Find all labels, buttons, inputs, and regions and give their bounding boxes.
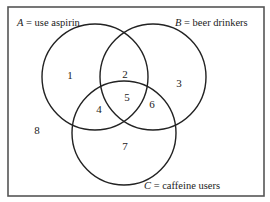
set-a-circle: [42, 24, 148, 130]
region-8-label: 8: [34, 124, 40, 136]
region-7-label: 7: [122, 140, 128, 152]
set-b-description: = beer drinkers: [181, 17, 247, 28]
universal-set-frame: [8, 7, 264, 196]
venn-diagram: A = use aspirin B = beer drinkers C = ca…: [0, 0, 270, 202]
region-4-label: 4: [96, 103, 102, 115]
set-b-label: B = beer drinkers: [175, 17, 248, 28]
set-a-description: = use aspirin: [23, 17, 80, 28]
region-5-label: 5: [124, 91, 130, 103]
region-1-label: 1: [67, 69, 73, 81]
region-2-label: 2: [122, 68, 128, 80]
set-a-label: A = use aspirin: [16, 17, 81, 28]
region-3-label: 3: [176, 77, 182, 89]
set-c-description: = caffeine users: [151, 180, 220, 191]
set-b-circle: [100, 24, 206, 130]
region-6-label: 6: [149, 98, 155, 110]
set-c-label: C = caffeine users: [144, 180, 220, 191]
